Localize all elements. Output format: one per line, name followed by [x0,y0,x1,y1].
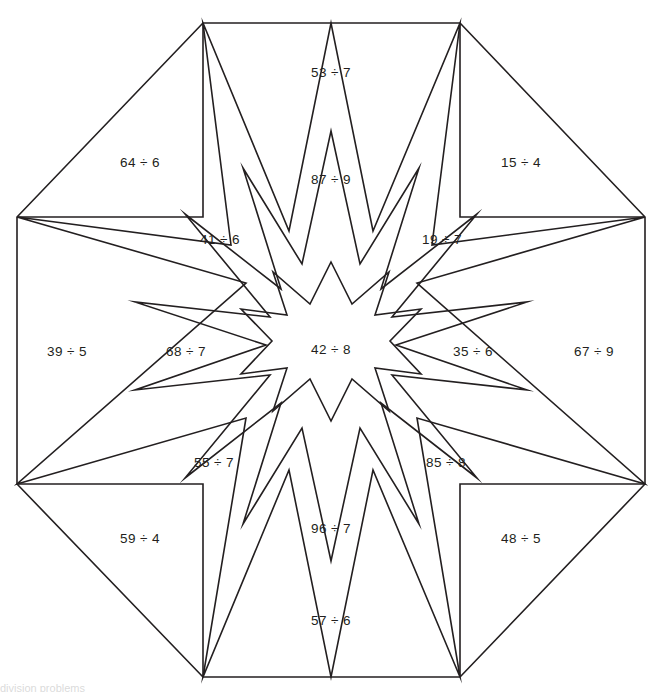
label-mid-right: 35 ÷ 6 [453,344,493,359]
label-mid-left: 68 ÷ 7 [166,344,206,359]
cut-off-footer-text: division problems [0,682,200,692]
worksheet-figure: 53 ÷ 7 64 ÷ 6 15 ÷ 4 39 ÷ 5 67 ÷ 9 59 ÷ … [0,0,662,692]
label-mid-top-left: 41 ÷ 6 [200,232,240,247]
starburst-diagram: 53 ÷ 7 64 ÷ 6 15 ÷ 4 39 ÷ 5 67 ÷ 9 59 ÷ … [0,0,662,692]
label-outer-bottom-left: 59 ÷ 4 [120,531,160,546]
label-outer-top-right: 15 ÷ 4 [501,155,541,170]
label-mid-bottom-left: 55 ÷ 7 [194,455,234,470]
label-mid-top: 87 ÷ 9 [311,172,351,187]
label-outer-right: 67 ÷ 9 [574,344,614,359]
label-outer-top-left: 64 ÷ 6 [120,155,160,170]
label-outer-left: 39 ÷ 5 [47,344,87,359]
label-outer-bottom: 57 ÷ 6 [311,613,351,628]
label-outer-top: 53 ÷ 7 [311,65,351,80]
label-mid-top-right: 19 ÷ 7 [422,232,462,247]
label-mid-bottom: 96 ÷ 7 [311,521,351,536]
label-mid-bottom-right: 85 ÷ 8 [426,455,466,470]
label-outer-bottom-right: 48 ÷ 5 [501,531,541,546]
label-center: 42 ÷ 8 [311,342,351,357]
